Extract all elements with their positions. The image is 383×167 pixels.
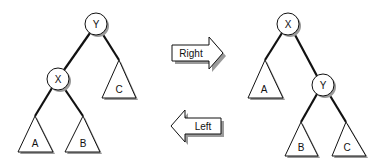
node-x-label: X (285, 19, 292, 30)
edge-y-c (329, 94, 346, 122)
subtree-c-label: C (343, 142, 350, 153)
edge-y-x (64, 33, 90, 70)
node-y-label: Y (320, 80, 327, 91)
arrow-left-label: Left (195, 121, 212, 132)
edge-y-b (301, 94, 317, 122)
right-tree: X Y A B C (248, 13, 368, 158)
left-tree: Y X C A B (18, 13, 138, 154)
subtree-a-label: A (261, 84, 268, 95)
edge-x-a (35, 88, 52, 116)
subtree-b-label: B (80, 138, 87, 149)
edge-x-a (265, 33, 282, 60)
subtree-c-label: C (115, 84, 122, 95)
edge-y-c (102, 33, 119, 60)
edge-x-y (294, 33, 317, 76)
left-arrow: Left (171, 110, 224, 145)
subtree-a-label: A (32, 138, 39, 149)
arrow-right-label: Right (179, 48, 203, 59)
node-y-label: Y (93, 19, 100, 30)
edge-x-b (64, 88, 83, 116)
rotation-diagram: Y X C A B Right Left (0, 0, 383, 167)
node-x-label: X (55, 74, 62, 85)
subtree-b-label: B (298, 142, 305, 153)
right-arrow: Right (172, 37, 226, 72)
